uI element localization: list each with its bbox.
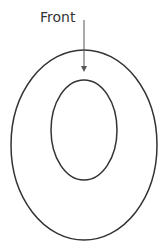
down-arrow-icon xyxy=(81,20,87,72)
inner-ellipse xyxy=(51,80,117,180)
concentric-ellipses-diagram xyxy=(0,0,166,250)
outer-ellipse xyxy=(11,50,157,240)
